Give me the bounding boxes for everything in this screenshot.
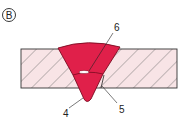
weld-diagram: B 6 4 5	[0, 0, 189, 123]
marker-label: B	[6, 10, 13, 21]
marker-circle: B	[3, 9, 16, 22]
label-5: 5	[119, 104, 125, 115]
label-4: 4	[63, 108, 69, 119]
label-6: 6	[114, 22, 120, 33]
